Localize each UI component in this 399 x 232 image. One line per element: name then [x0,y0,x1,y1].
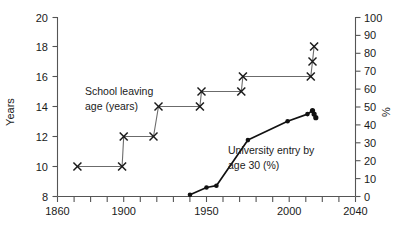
series2-annotation-line1: University entry by [228,144,315,156]
right-tick-60: 60 [364,83,376,95]
series2-point-1956-6 [214,183,219,188]
left-tick-8: 8 [42,191,48,203]
right-tick-80: 80 [364,47,376,59]
series1-annotation-line2: age (years) [85,100,138,112]
series2-point-1975-31 [246,138,251,143]
left-axis-tick-labels: 8 10 12 14 16 18 20 [36,12,48,203]
left-axis-title: Years [4,98,16,126]
series2-point-1950-5 [204,185,209,190]
right-tick-100: 100 [364,12,382,24]
series2-annotation: University entry by age 30 (%) [228,144,315,171]
left-tick-16: 16 [36,71,48,83]
left-tick-12: 12 [36,131,48,143]
right-tick-0: 0 [364,191,370,203]
x-axis-tick-labels: 1860 1900 1950 2000 2040 [45,205,367,217]
x-axis-minor-ticks [58,197,356,203]
right-tick-40: 40 [364,119,376,131]
series1-annotation-line1: School leaving [85,85,153,97]
right-tick-10: 10 [364,173,376,185]
right-axis-ticks [356,18,361,197]
series2-point-2011-46 [305,112,310,117]
left-tick-18: 18 [36,41,48,53]
right-tick-20: 20 [364,155,376,167]
series2-point-1940-1 [188,192,193,197]
chart-svg: 8 10 12 14 16 18 20 Years 0 10 20 [0,0,399,232]
x-tick-1900: 1900 [111,205,135,217]
right-tick-90: 90 [364,29,376,41]
series2-point-1999-42 [285,119,290,124]
right-axis-tick-labels: 0 10 20 30 40 50 60 70 80 90 100 [364,12,382,203]
x-tick-2000: 2000 [277,205,301,217]
left-axis-ticks [53,18,58,197]
left-tick-14: 14 [36,101,48,113]
series2-point-2016-44 [313,115,318,120]
left-tick-10: 10 [36,161,48,173]
x-tick-1950: 1950 [194,205,218,217]
right-axis-title: % [380,107,392,117]
series2-annotation-line2: age 30 (%) [228,159,279,171]
x-tick-1860: 1860 [45,205,69,217]
right-tick-50: 50 [364,101,376,113]
series1-annotation: School leaving age (years) [85,85,153,112]
left-tick-20: 20 [36,12,48,24]
chart-container: 8 10 12 14 16 18 20 Years 0 10 20 [0,0,399,232]
x-tick-2040: 2040 [343,205,367,217]
right-tick-30: 30 [364,137,376,149]
right-tick-70: 70 [364,65,376,77]
